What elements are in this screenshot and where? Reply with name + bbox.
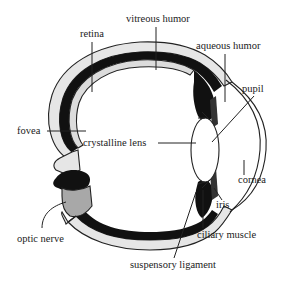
- svg-text:suspensory ligament: suspensory ligament: [130, 259, 216, 270]
- label-pupil: pupil: [212, 83, 264, 142]
- svg-text:iris: iris: [216, 199, 229, 210]
- svg-text:aqueous humor: aqueous humor: [196, 40, 261, 51]
- label-crystalline-lens: crystalline lens: [83, 137, 196, 148]
- eye-diagram: vitreous humor retina aqueous humor pupi…: [0, 0, 295, 282]
- svg-text:cornea: cornea: [238, 174, 266, 185]
- svg-text:pupil: pupil: [242, 83, 264, 94]
- crystalline-lens: [191, 118, 219, 182]
- cornea: [226, 80, 260, 212]
- svg-text:fovea: fovea: [17, 125, 41, 136]
- svg-text:optic nerve: optic nerve: [17, 233, 64, 244]
- label-iris: iris: [214, 188, 229, 210]
- svg-text:retina: retina: [80, 28, 104, 39]
- svg-text:ciliary muscle: ciliary muscle: [197, 229, 257, 240]
- label-optic-nerve: optic nerve: [17, 202, 66, 244]
- svg-text:vitreous humor: vitreous humor: [126, 13, 190, 24]
- svg-text:crystalline lens: crystalline lens: [83, 137, 146, 148]
